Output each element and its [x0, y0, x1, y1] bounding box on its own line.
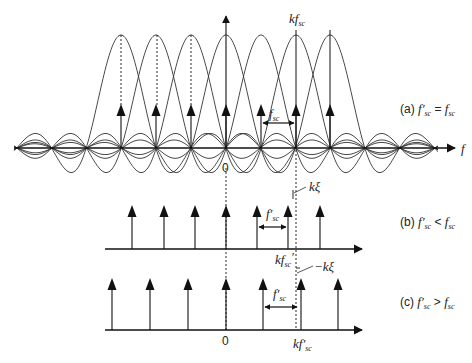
peak-label-b: kfsc′: [275, 249, 294, 269]
peak-label-kfsc: kfsc: [289, 11, 306, 28]
spacing-label-c: f′sc: [273, 286, 287, 303]
axis-label-f: f: [461, 141, 467, 156]
panel-c: f′sc 0 kf′sc (c) f′sc > fsc: [105, 278, 455, 353]
subcarrier-arrows-a: [117, 104, 335, 148]
offset-leader-c: [297, 266, 313, 273]
subcarrier-arrows-c: [108, 278, 343, 330]
origin-label-a: 0: [222, 161, 229, 175]
origin-label-c: 0: [222, 334, 229, 348]
panel-b: f′sc kfsc′ (b) f′sc < fsc: [105, 205, 456, 269]
condition-c: (c) f′sc > fsc: [400, 294, 455, 311]
subcarrier-arrows-b: [128, 205, 325, 249]
peak-dotted-lines: [121, 35, 191, 105]
ofdm-spectrum-diagram: f fsc kfsc 0 (a) f′sc = fsc kξ: [0, 0, 472, 363]
condition-a: (a) f′sc = fsc: [400, 101, 456, 118]
panel-a: f fsc kfsc 0 (a) f′sc = fsc: [14, 11, 467, 175]
spacing-label-b: f′sc: [266, 206, 280, 223]
offset-label-c: −kξ: [314, 259, 335, 274]
reference-dotted-lines: [226, 150, 296, 330]
offset-label-b: kξ: [309, 179, 321, 194]
spacing-label-a: fsc: [269, 106, 280, 123]
peak-label-c: kf′sc: [293, 336, 312, 353]
condition-b: (b) f′sc < fsc: [400, 214, 456, 231]
